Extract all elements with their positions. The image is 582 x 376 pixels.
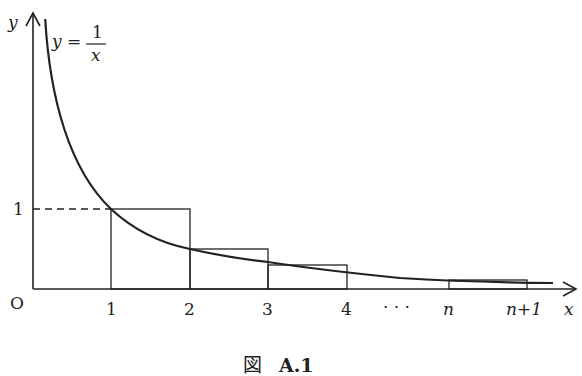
x-tick-n-plus-1: n+1 — [506, 299, 542, 319]
x-tick-1: 1 — [106, 299, 117, 319]
x-tick-4: 4 — [341, 299, 352, 319]
curve-one-over-x — [45, 19, 553, 283]
rect-2-3 — [190, 249, 268, 289]
harmonic-series-diagram: y y = 1 x 1 O 1 2 3 4 · · · n n+1 x 図 A.… — [0, 0, 582, 376]
origin-label: O — [10, 293, 24, 313]
y-tick-1: 1 — [13, 199, 24, 219]
x-tick-ellipsis: · · · — [383, 297, 410, 317]
caption-prefix: 図 — [243, 354, 262, 376]
function-denominator: x — [91, 45, 101, 65]
x-tick-3: 3 — [262, 299, 273, 319]
caption-label: A.1 — [278, 354, 314, 376]
function-numerator: 1 — [92, 22, 103, 42]
x-tick-2: 2 — [184, 299, 195, 319]
function-label: y = — [51, 31, 81, 51]
x-tick-n: n — [443, 299, 454, 319]
y-axis-label: y — [7, 12, 18, 32]
x-axis-label: x — [564, 299, 574, 319]
rectangles — [111, 209, 527, 289]
rect-1-2 — [111, 209, 190, 289]
